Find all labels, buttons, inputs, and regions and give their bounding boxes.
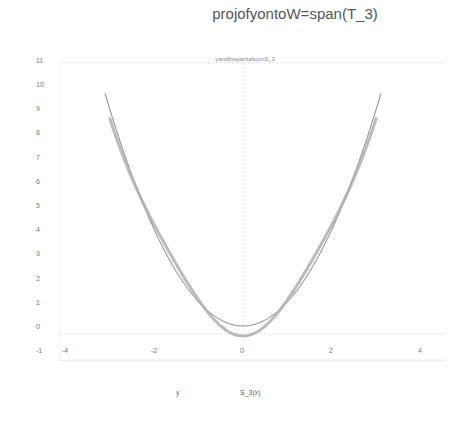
svg-text:-2: -2 (151, 347, 157, 354)
svg-text:0: 0 (240, 347, 244, 354)
plot-area: -101234567891011-4-2024 (0, 0, 470, 421)
svg-text:-4: -4 (62, 347, 68, 354)
svg-text:6: 6 (36, 178, 40, 185)
svg-text:5: 5 (36, 202, 40, 209)
svg-text:0: 0 (36, 323, 40, 330)
svg-text:-1: -1 (36, 347, 42, 354)
svg-text:10: 10 (36, 81, 44, 88)
legend-item-s3: S_3(x) (240, 389, 261, 396)
legend-item-y: y (176, 389, 180, 396)
svg-text:2: 2 (36, 275, 40, 282)
svg-text:3: 3 (36, 250, 40, 257)
svg-text:1: 1 (36, 299, 40, 306)
svg-text:8: 8 (36, 129, 40, 136)
svg-text:9: 9 (36, 105, 40, 112)
svg-text:4: 4 (36, 226, 40, 233)
svg-text:7: 7 (36, 154, 40, 161)
svg-text:11: 11 (36, 57, 43, 64)
svg-text:4: 4 (418, 347, 422, 354)
svg-text:2: 2 (329, 347, 333, 354)
axes: -101234567891011-4-2024 (36, 57, 445, 360)
